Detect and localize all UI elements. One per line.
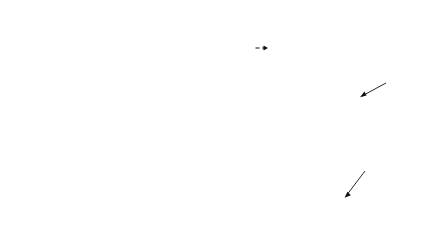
annotation-projection-note	[345, 171, 365, 198]
annotation-peak-callout	[360, 83, 386, 97]
chart-container	[0, 0, 433, 229]
reserves-area-chart	[0, 0, 433, 229]
normalization-arrow	[256, 46, 269, 51]
